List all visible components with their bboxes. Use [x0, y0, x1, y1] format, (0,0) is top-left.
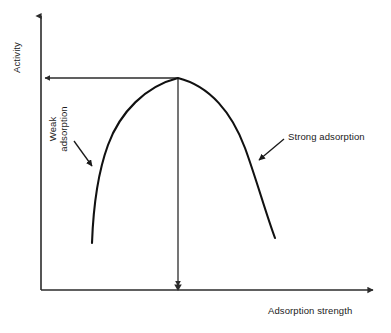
y-axis-label: Activity	[11, 28, 22, 88]
plot-canvas	[0, 0, 391, 333]
weak-adsorption-annotation: Weak adsorption	[47, 98, 69, 160]
strong-adsorption-annotation: Strong adsorption	[288, 131, 365, 142]
weak-adsorption-label-line2: adsorption	[58, 98, 69, 160]
weak-adsorption-label-line1: Weak	[47, 117, 58, 142]
volcano-plot-figure: Activity Adsorption strength Weak adsorp…	[0, 0, 391, 333]
x-axis-label: Adsorption strength	[268, 305, 352, 316]
weak-adsorption-arrow	[74, 141, 92, 166]
strong-adsorption-arrow	[259, 139, 284, 160]
volcano-curve	[92, 78, 275, 243]
